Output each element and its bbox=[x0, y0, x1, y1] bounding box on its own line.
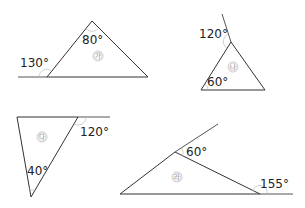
triangle-da-label: ㉰ bbox=[38, 133, 46, 142]
angle-arc-icon bbox=[182, 148, 183, 156]
angle-label-na-120: 120° bbox=[199, 27, 228, 41]
triangle-ga: 80° 130° ㉮ bbox=[18, 21, 148, 77]
triangle-ga-label: ㉮ bbox=[94, 52, 102, 61]
angle-label-da-40: 40° bbox=[27, 164, 48, 178]
triangle-na-label: ㉯ bbox=[229, 63, 237, 72]
angle-label-na-60: 60° bbox=[207, 75, 228, 89]
triangle-ra: 60° 155° ㉱ bbox=[120, 124, 293, 194]
triangle-angles-diagram: 80° 130° ㉮ 120° 60° ㉯ 120° 40° ㉰ 60° 155… bbox=[0, 0, 305, 208]
triangle-da-shape bbox=[17, 117, 78, 197]
angle-label-ra-155: 155° bbox=[260, 177, 289, 191]
angle-arc-icon bbox=[86, 29, 98, 31]
triangle-da: 120° 40° ㉰ bbox=[17, 117, 110, 197]
angle-label-da-120: 120° bbox=[80, 125, 109, 139]
angle-label-ga-80: 80° bbox=[82, 33, 103, 47]
angle-label-ra-60: 60° bbox=[186, 145, 207, 159]
angle-label-ga-130: 130° bbox=[20, 56, 49, 70]
triangle-na: 120° 60° ㉯ bbox=[199, 14, 265, 90]
triangle-ra-label: ㉱ bbox=[173, 173, 181, 182]
